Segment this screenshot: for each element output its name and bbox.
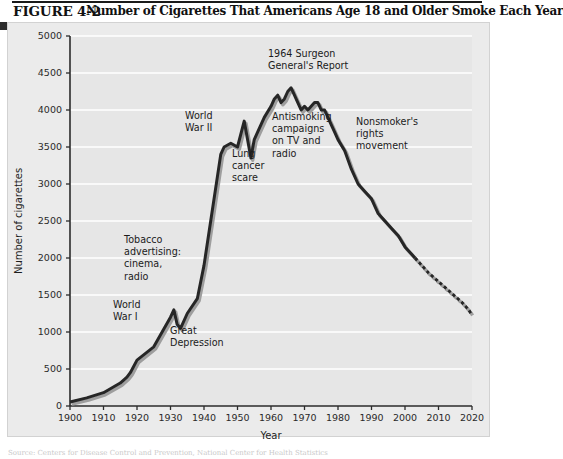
annotation-line: Antismoking [272, 111, 332, 122]
x-tick-label: 2020 [460, 412, 484, 423]
annotation-line: campaigns [272, 123, 324, 134]
annotation-line: War II [185, 122, 212, 133]
annotation-line: cinema, [124, 258, 162, 269]
y-tick-label: 3500 [38, 141, 62, 152]
y-tick-label: 4000 [38, 104, 62, 115]
annotation-line: Lung [232, 148, 255, 159]
x-tick-label: 1980 [326, 412, 350, 423]
annotation-line: cancer [232, 160, 264, 171]
annotation: WorldWar II [185, 110, 213, 133]
x-tick-label: 2000 [393, 412, 417, 423]
annotation-line: Depression [170, 337, 224, 348]
annotation-line: Nonsmoker's [356, 116, 418, 127]
annotation-line: World [185, 110, 213, 121]
x-tick-label: 1990 [359, 412, 383, 423]
y-tick-label: 0 [56, 400, 62, 411]
annotation-line: advertising: [124, 246, 181, 257]
x-tick-label: 1930 [158, 412, 182, 423]
annotation-line: radio [272, 148, 297, 159]
y-tick-labels: 0500100015002000250030003500400045005000 [38, 30, 62, 411]
annotation-line: War I [113, 311, 138, 322]
annotation-line: Tobacco [123, 234, 163, 245]
y-tick-label: 500 [44, 363, 62, 374]
y-tick-label: 2500 [38, 215, 62, 226]
y-tick-label: 1000 [38, 326, 62, 337]
y-tick-label: 1500 [38, 289, 62, 300]
x-tick-label: 1950 [225, 412, 249, 423]
annotation-line: movement [356, 140, 408, 151]
source-caption: Source: Centers for Disease Control and … [8, 449, 488, 458]
x-tick-label: 1900 [58, 412, 82, 423]
annotation-line: rights [356, 128, 384, 139]
x-axis-title: Year [259, 430, 282, 441]
annotation: WorldWar I [113, 299, 141, 322]
y-axis-title: Number of cigarettes [13, 168, 24, 274]
annotation-line: 1964 Surgeon [268, 48, 335, 59]
y-tick-label: 2000 [38, 252, 62, 263]
annotation-line: World [113, 299, 141, 310]
y-tick-label: 3000 [38, 178, 62, 189]
y-tick-label: 4500 [38, 67, 62, 78]
annotation-line: Great [170, 325, 197, 336]
x-tick-label: 1940 [192, 412, 216, 423]
x-tick-label: 1960 [259, 412, 283, 423]
x-tick-label: 1920 [125, 412, 149, 423]
annotation-line: scare [232, 172, 258, 183]
x-tick-label: 1970 [292, 412, 316, 423]
y-tick-label: 5000 [38, 30, 62, 41]
x-tick-label: 2010 [426, 412, 450, 423]
annotation-line: General's Report [268, 60, 349, 71]
x-tick-label: 1910 [91, 412, 115, 423]
annotation-line: on TV and [272, 135, 321, 146]
x-tick-labels: 1900191019201930194019501960197019801990… [58, 412, 484, 423]
annotation-line: radio [124, 271, 149, 282]
